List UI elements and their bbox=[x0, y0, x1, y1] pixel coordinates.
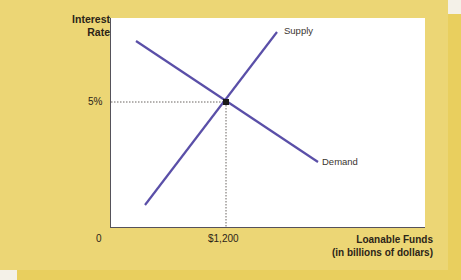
equilibrium-point bbox=[223, 99, 229, 105]
x-tick-1200: $1,200 bbox=[208, 233, 239, 244]
supply-label: Supply bbox=[284, 25, 313, 36]
x-axis-title: Loanable Funds (in billions of dollars) bbox=[332, 233, 433, 259]
x-axis-title-line1: Loanable Funds bbox=[332, 233, 433, 246]
y-tick-5pct: 5% bbox=[88, 96, 102, 107]
x-axis-title-line2: (in billions of dollars) bbox=[332, 246, 433, 259]
x-tick-zero: 0 bbox=[96, 233, 102, 244]
supply-curve bbox=[145, 32, 277, 205]
demand-label: Demand bbox=[322, 156, 358, 167]
